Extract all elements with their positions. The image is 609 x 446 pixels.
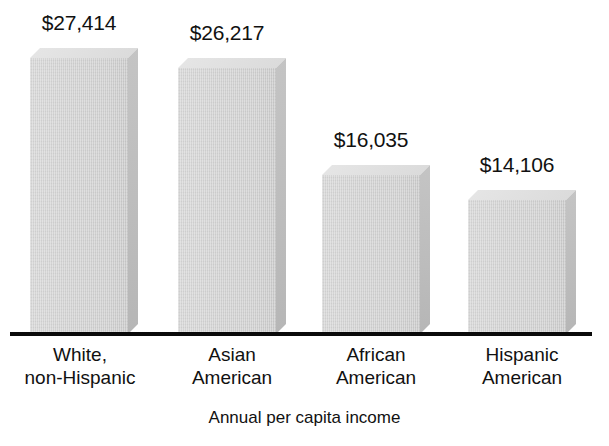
bar-4-front-face bbox=[468, 200, 566, 334]
bar-1-top-face bbox=[30, 48, 138, 58]
category-label-1-line-2: non-Hispanic bbox=[10, 366, 150, 389]
bar-chart: $27,414 $26,217 $16,035 $14,106 bbox=[0, 0, 609, 446]
x-axis-line bbox=[10, 332, 592, 336]
category-label-4-line-2: American bbox=[452, 366, 592, 389]
value-label-bar-1: $27,414 bbox=[30, 11, 128, 35]
bar-1-side-face bbox=[128, 48, 138, 334]
bar-2 bbox=[178, 58, 286, 334]
plot-area: $27,414 $26,217 $16,035 $14,106 bbox=[0, 0, 609, 336]
category-label-1: White, non-Hispanic bbox=[10, 343, 150, 389]
category-label-3-line-2: American bbox=[306, 366, 446, 389]
category-label-2: Asian American bbox=[162, 343, 302, 389]
category-label-4-line-1: Hispanic bbox=[452, 343, 592, 366]
category-label-4: Hispanic American bbox=[452, 343, 592, 389]
value-label-bar-2: $26,217 bbox=[178, 21, 276, 45]
category-label-3: African American bbox=[306, 343, 446, 389]
bar-3-top-face bbox=[322, 165, 430, 175]
bar-3 bbox=[322, 165, 430, 334]
value-label-bar-3: $16,035 bbox=[322, 128, 420, 152]
bar-3-side-face bbox=[420, 165, 430, 334]
bar-3-front-face bbox=[322, 175, 420, 334]
bar-1 bbox=[30, 48, 138, 334]
category-label-3-line-1: African bbox=[306, 343, 446, 366]
bar-4-side-face bbox=[566, 190, 576, 334]
category-label-1-line-1: White, bbox=[10, 343, 150, 366]
bar-2-side-face bbox=[276, 58, 286, 334]
bar-1-front-face bbox=[30, 58, 128, 334]
x-axis-title: Annual per capita income bbox=[0, 408, 609, 428]
bar-4-top-face bbox=[468, 190, 576, 200]
bar-4 bbox=[468, 190, 576, 334]
value-label-bar-4: $14,106 bbox=[468, 153, 566, 177]
bar-2-top-face bbox=[178, 58, 286, 68]
category-label-2-line-1: Asian bbox=[162, 343, 302, 366]
category-label-2-line-2: American bbox=[162, 366, 302, 389]
bar-2-front-face bbox=[178, 68, 276, 334]
